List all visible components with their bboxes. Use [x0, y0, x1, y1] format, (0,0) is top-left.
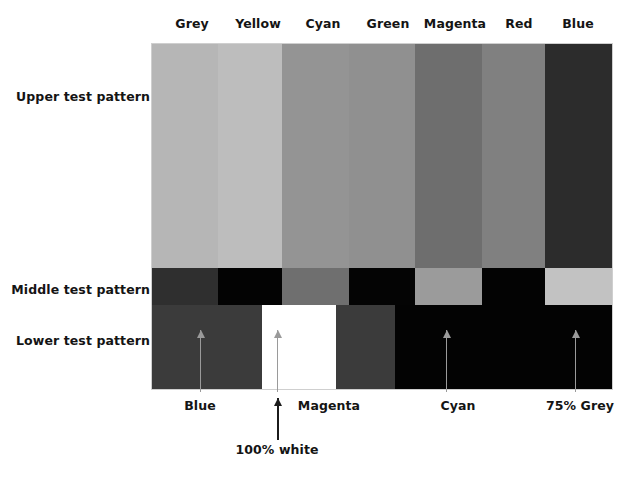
pattern-cell — [262, 305, 336, 389]
arrow-100-white — [277, 398, 279, 440]
arrow-magenta — [277, 330, 278, 392]
pattern-cell — [545, 44, 612, 268]
column-header-yellow: Yellow — [235, 16, 281, 31]
column-header-grey: Grey — [175, 16, 208, 31]
pattern-cell — [415, 268, 482, 305]
lower-test-pattern-band — [152, 305, 612, 389]
pattern-cell — [415, 44, 482, 268]
callout-cyan: Cyan — [440, 398, 475, 413]
callout-blue: Blue — [184, 398, 216, 413]
pattern-cell — [218, 268, 282, 305]
pattern-cell — [545, 268, 612, 305]
upper-test-pattern-band — [152, 44, 612, 268]
column-header-cyan: Cyan — [305, 16, 340, 31]
row-label-middle: Middle test pattern — [11, 282, 150, 297]
callout-100-white: 100% white — [235, 442, 318, 457]
figure-canvas: Upper test pattern Middle test pattern L… — [0, 0, 628, 478]
pattern-cell — [152, 268, 218, 305]
pattern-cell — [349, 44, 415, 268]
arrow-cyan — [446, 330, 447, 392]
pattern-cell — [349, 268, 415, 305]
column-header-blue: Blue — [562, 16, 594, 31]
pattern-cell — [282, 268, 349, 305]
pattern-cell — [395, 305, 612, 389]
pattern-cell — [282, 44, 349, 268]
arrow-75-grey — [575, 330, 576, 392]
callout-75-grey: 75% Grey — [546, 398, 614, 413]
row-label-upper: Upper test pattern — [16, 89, 150, 104]
arrow-blue — [200, 330, 201, 392]
row-label-lower: Lower test pattern — [16, 333, 150, 348]
test-pattern-image — [152, 44, 612, 389]
pattern-cell — [152, 305, 262, 389]
pattern-cell — [482, 44, 545, 268]
column-header-red: Red — [505, 16, 532, 31]
column-header-green: Green — [367, 16, 410, 31]
pattern-cell — [336, 305, 395, 389]
middle-test-pattern-band — [152, 268, 612, 305]
column-header-magenta: Magenta — [424, 16, 486, 31]
pattern-cell — [482, 268, 545, 305]
pattern-cell — [152, 44, 218, 268]
callout-magenta: Magenta — [298, 398, 360, 413]
pattern-cell — [218, 44, 282, 268]
